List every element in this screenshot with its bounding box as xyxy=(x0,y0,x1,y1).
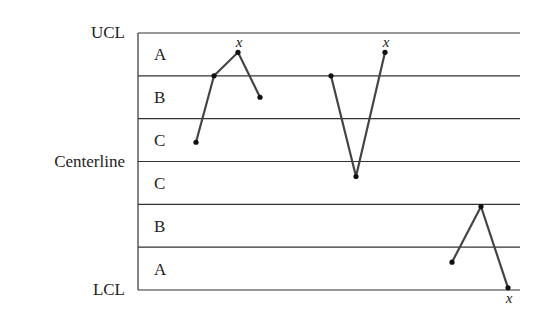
out-of-control-marker: x xyxy=(505,290,513,306)
data-point xyxy=(257,95,262,100)
zone-label-b: B xyxy=(154,217,165,236)
series-line xyxy=(196,52,260,142)
control-chart: UCLCenterlineLCLABCCBAxxx xyxy=(0,0,544,314)
centerline-label: Centerline xyxy=(54,152,125,171)
data-point xyxy=(382,50,387,55)
data-point xyxy=(193,140,198,145)
data-point xyxy=(478,204,483,209)
out-of-control-marker: x xyxy=(235,34,243,50)
data-point xyxy=(211,73,216,78)
ucl-label: UCL xyxy=(91,23,125,42)
zone-label-c: C xyxy=(154,174,165,193)
data-point xyxy=(235,50,240,55)
data-point xyxy=(353,174,358,179)
zone-label-a: A xyxy=(154,45,167,64)
zone-label-a: A xyxy=(154,260,167,279)
out-of-control-marker: x xyxy=(382,34,390,50)
data-point xyxy=(449,260,454,265)
zone-label-b: B xyxy=(154,88,165,107)
series-line xyxy=(331,52,385,176)
lcl-label: LCL xyxy=(93,280,125,299)
zone-label-c: C xyxy=(154,131,165,150)
data-point xyxy=(328,73,333,78)
